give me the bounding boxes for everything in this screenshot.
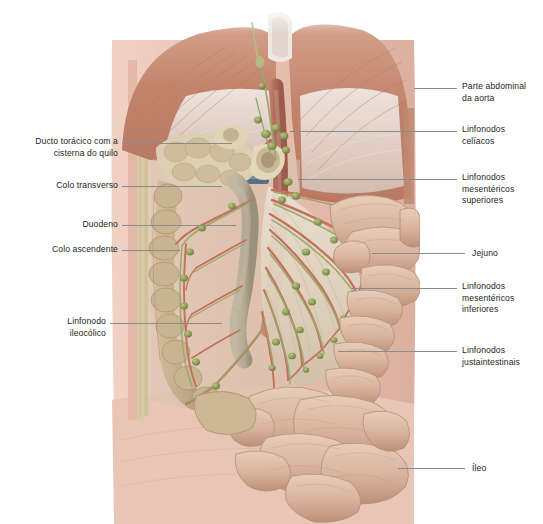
leader-line-linfonodos-celiacos (290, 131, 457, 132)
anatomy-illustration (0, 0, 543, 524)
anatomy-figure: Ducto torácico com a cisterna do quilo C… (0, 0, 543, 524)
label-linfonodos-celiacos: Linfonodos celíacos (462, 124, 542, 147)
leader-line-linfonodo-ileocolico (110, 323, 222, 324)
label-colo-ascendente: Colo ascendente (8, 244, 118, 256)
label-linfonodos-mesentericos-inferiores: Linfonodos mesentéricos inferiores (462, 281, 542, 316)
leader-line-colo-transverso (122, 186, 222, 187)
label-duodeno: Duodeno (8, 219, 118, 231)
leader-line-linfonodos-mesentericos-superiores (298, 179, 457, 180)
label-jejuno: Jejuno (472, 248, 542, 260)
label-linfonodos-justaintestinais: Linfonodos justaintestinais (462, 345, 543, 368)
leader-line-linfonodos-mesentericos-inferiores (352, 288, 457, 289)
leader-line-jejuno (372, 253, 465, 254)
leader-line-ileo (398, 468, 465, 469)
leader-line-duodeno (122, 225, 236, 226)
label-linfonodo-ileocolico: Linfonodo ileocólico (8, 316, 106, 339)
leader-line-linfonodos-justaintestinais (338, 351, 457, 352)
label-ducto-toracico: Ducto torácico com a cisterna do quilo (8, 136, 118, 159)
label-ileo: Íleo (472, 463, 542, 475)
leader-line-colo-ascendente (122, 250, 180, 251)
leader-line-parte-abdominal-aorta (414, 88, 457, 89)
label-parte-abdominal-aorta: Parte abdominal da aorta (462, 81, 542, 104)
cecum (194, 391, 256, 434)
leader-line-ducto-toracico (122, 143, 232, 144)
label-linfonodos-mesentericos-superiores: Linfonodos mesentéricos superiores (462, 172, 542, 207)
label-colo-transverso: Colo transverso (8, 180, 118, 192)
